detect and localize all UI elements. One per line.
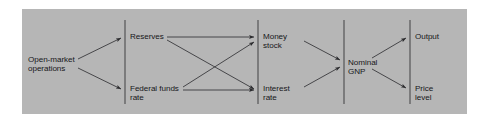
edge-nominalgnp-to-output xyxy=(372,38,406,58)
diagram-panel: Open-market operations Reserves Federal … xyxy=(22,9,467,114)
edge-moneystock-to-nominalgnp xyxy=(304,41,340,60)
edge-openmarket-to-reserves xyxy=(78,38,121,59)
edge-fedfunds-to-moneystock xyxy=(183,42,254,87)
diagram-root: Open-market operations Reserves Federal … xyxy=(0,0,477,124)
flow-arrows-layer xyxy=(22,9,467,114)
edge-nominalgnp-to-pricelevel xyxy=(372,69,406,88)
edge-reserves-to-interestrate xyxy=(167,40,254,89)
edge-openmarket-to-fedfunds xyxy=(78,68,121,89)
edge-interestrate-to-nominalgnp xyxy=(304,67,340,87)
